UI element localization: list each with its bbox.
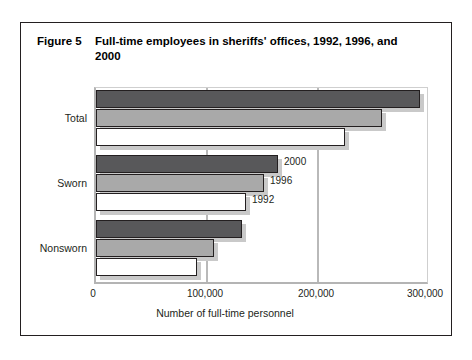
category-axis-labels: Total Sworn Nonsworn xyxy=(21,87,87,284)
bar-nonsworn-2000 xyxy=(96,220,242,238)
bar-total-2000 xyxy=(96,90,420,108)
figure-frame: Figure 5Full-time employees in sheriffs'… xyxy=(20,22,452,336)
bar-total-1992 xyxy=(96,128,345,146)
series-annotation-1992: 1992 xyxy=(252,194,274,205)
x-axis-title-text: Number of full-time personnel xyxy=(156,307,294,319)
x-axis-title: Number of full-time personnel xyxy=(0,307,472,319)
bar-sworn-2000 xyxy=(96,155,278,173)
figure-title-text: Full-time employees in sheriffs' offices… xyxy=(95,34,425,64)
bar-total-1996 xyxy=(96,109,382,127)
xtick-200000: 200,000 xyxy=(298,288,334,299)
figure-title: Figure 5Full-time employees in sheriffs'… xyxy=(37,34,437,64)
figure-number-label: Figure 5 xyxy=(37,34,95,49)
category-label-nonsworn: Nonsworn xyxy=(40,242,87,254)
bar-sworn-1992 xyxy=(96,193,246,211)
plot-area: 2000 1996 1992 xyxy=(94,87,428,284)
bar-sworn-1996 xyxy=(96,174,264,192)
xtick-0: 0 xyxy=(90,288,96,299)
bar-nonsworn-1996 xyxy=(96,239,214,257)
category-label-sworn: Sworn xyxy=(57,177,87,189)
category-label-total: Total xyxy=(65,112,87,124)
bar-nonsworn-1992 xyxy=(96,258,197,276)
xtick-100000: 100,000 xyxy=(187,288,223,299)
series-annotation-1996: 1996 xyxy=(270,175,292,186)
series-annotation-2000: 2000 xyxy=(284,156,306,167)
xtick-300000: 300,000 xyxy=(407,288,443,299)
